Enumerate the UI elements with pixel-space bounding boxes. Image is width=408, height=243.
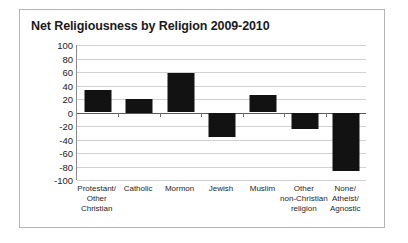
y-axis-tick-label: 0 [68,107,73,118]
bar[interactable] [250,95,277,113]
x-axis-category-line: Agnostic [319,204,372,214]
x-axis-category-line: None/ [319,184,372,194]
y-axis-tick-label: 60 [62,67,73,78]
bar[interactable] [333,113,360,172]
bar-slot [201,45,242,180]
bar[interactable] [126,99,153,113]
bar-slot [160,45,201,180]
y-axis-tick-label: 80 [62,53,73,64]
chart-figure: Net Religiousness by Religion 2009-2010 … [19,9,385,228]
bar-slot [118,45,159,180]
bar-slot [284,45,325,180]
y-axis-tick-label: 20 [62,94,73,105]
x-axis-category-line: Other [70,194,123,204]
y-axis-tick-label: 100 [57,40,73,51]
y-axis-tick-label: -80 [59,161,73,172]
bar[interactable] [84,90,111,112]
bar[interactable] [291,113,318,129]
x-axis-category-line: Atheist/ [319,194,372,204]
bar-slot [326,45,367,180]
y-axis-tick-label: -40 [59,134,73,145]
y-axis-tick-label: -20 [59,121,73,132]
bar-slot [77,45,118,180]
gridline: -100 [77,180,366,181]
plot-wrapper: 100806040200-20-40-60-80-100 Protestant/… [20,10,384,227]
y-axis-tick-label: 40 [62,80,73,91]
x-axis-category-line: Christian [70,204,123,214]
bar-slot [243,45,284,180]
x-axis-category-label: None/Atheist/Agnostic [319,184,372,215]
bar[interactable] [208,113,235,138]
y-axis-tick-label: -60 [59,148,73,159]
plot-area: 100806040200-20-40-60-80-100 [76,45,366,180]
bars-layer [77,45,366,180]
bar[interactable] [167,73,194,113]
